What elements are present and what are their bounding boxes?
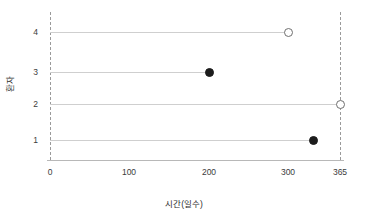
y-tick-label-3: 3 bbox=[18, 67, 38, 77]
reference-line-day0 bbox=[50, 12, 51, 160]
plot-area: 4 3 2 1 0 100 200 300 365 시간(일수) 환자 bbox=[0, 0, 368, 220]
y-tick-label-2: 2 bbox=[18, 99, 38, 109]
x-axis-title: 시간(일수) bbox=[0, 197, 368, 209]
marker-censored-patient-4 bbox=[284, 28, 293, 37]
reference-line-day365 bbox=[340, 12, 341, 160]
x-tick-label-200: 200 bbox=[189, 167, 229, 177]
marker-censored-patient-2 bbox=[336, 100, 345, 109]
marker-event-patient-3 bbox=[205, 68, 214, 77]
segment-patient-1 bbox=[50, 140, 313, 141]
segment-patient-4 bbox=[50, 32, 288, 33]
x-axis-line bbox=[47, 160, 344, 161]
marker-event-patient-1 bbox=[309, 136, 318, 145]
x-tick-label-0: 0 bbox=[30, 167, 70, 177]
swimmer-plot-chart: 4 3 2 1 0 100 200 300 365 시간(일수) 환자 bbox=[0, 0, 368, 220]
segment-patient-3 bbox=[50, 72, 209, 73]
segment-patient-2 bbox=[50, 104, 340, 105]
y-tick-label-1: 1 bbox=[18, 135, 38, 145]
x-tick-label-100: 100 bbox=[109, 167, 149, 177]
x-tick-label-365: 365 bbox=[320, 167, 360, 177]
y-axis-title: 환자 bbox=[3, 64, 15, 104]
y-tick-label-4: 4 bbox=[18, 27, 38, 37]
x-tick-label-300: 300 bbox=[268, 167, 308, 177]
